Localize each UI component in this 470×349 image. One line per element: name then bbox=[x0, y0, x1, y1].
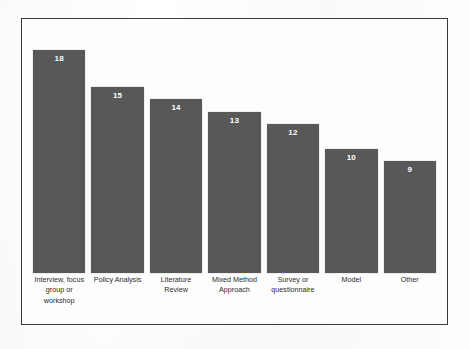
bar-slot: 9 bbox=[381, 25, 439, 273]
bar-value-label: 10 bbox=[325, 154, 377, 162]
bar[interactable]: 13 bbox=[208, 112, 260, 273]
bar-value-label: 13 bbox=[208, 117, 260, 125]
bar-value-label: 15 bbox=[91, 92, 143, 100]
category-label: Literature Review bbox=[147, 275, 205, 306]
bar-slot: 10 bbox=[322, 25, 380, 273]
bar-slot: 18 bbox=[30, 25, 88, 273]
bar[interactable]: 15 bbox=[91, 87, 143, 273]
bar-series: 18 15 14 13 12 bbox=[30, 25, 439, 273]
category-label: Other bbox=[381, 275, 439, 306]
bar-value-label: 12 bbox=[267, 129, 319, 137]
category-label: Policy Analysis bbox=[88, 275, 146, 306]
plot-area: 18 15 14 13 12 bbox=[30, 25, 439, 318]
bar-slot: 14 bbox=[147, 25, 205, 273]
bar[interactable]: 12 bbox=[267, 124, 319, 273]
category-label: Model bbox=[322, 275, 380, 306]
bar-slot: 12 bbox=[264, 25, 322, 273]
bar-value-label: 14 bbox=[150, 104, 202, 112]
bar-value-label: 18 bbox=[33, 55, 85, 63]
chart-frame: 18 15 14 13 12 bbox=[21, 18, 448, 325]
category-label: Mixed Method Approach bbox=[205, 275, 263, 306]
bar[interactable]: 18 bbox=[33, 50, 85, 273]
bar-slot: 13 bbox=[205, 25, 263, 273]
category-label: Interview, focus group or workshop bbox=[30, 275, 88, 306]
bar[interactable]: 9 bbox=[384, 161, 436, 273]
category-axis-labels: Interview, focus group or workshop Polic… bbox=[30, 275, 439, 306]
bar[interactable]: 14 bbox=[150, 99, 202, 273]
bar[interactable]: 10 bbox=[325, 149, 377, 273]
bar-value-label: 9 bbox=[384, 166, 436, 174]
category-label: Survey or questionnaire bbox=[264, 275, 322, 306]
bar-slot: 15 bbox=[88, 25, 146, 273]
